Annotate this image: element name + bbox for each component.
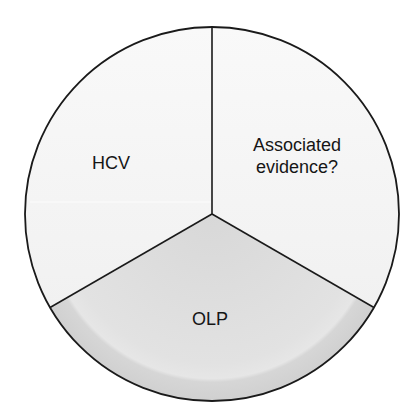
label-hcv: HCV	[92, 153, 130, 175]
pie-diagram-graphic	[0, 0, 417, 420]
label-olp: OLP	[192, 309, 228, 331]
pie-diagram: HCV Associated evidence? OLP	[0, 0, 417, 420]
label-associated-evidence: Associated evidence?	[253, 135, 341, 178]
label-associated-line1: Associated	[253, 135, 341, 157]
label-associated-line2: evidence?	[253, 157, 341, 179]
